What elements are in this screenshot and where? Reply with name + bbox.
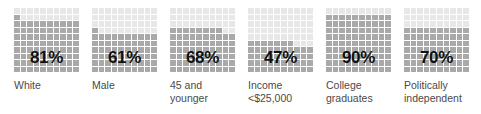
waffle-cell	[132, 41, 138, 47]
waffle-cell	[333, 28, 339, 34]
waffle-cell	[177, 8, 183, 14]
waffle-cell	[450, 28, 456, 34]
waffle-cell	[170, 28, 176, 34]
waffle-cell	[21, 60, 27, 66]
waffle-cell	[47, 67, 53, 73]
waffle-cell	[138, 28, 144, 34]
waffle-cell	[34, 28, 40, 34]
waffle-cell	[339, 8, 345, 14]
waffle-cell	[47, 34, 53, 40]
waffle-cell	[125, 8, 131, 14]
waffle-cell	[177, 28, 183, 34]
waffle-cell	[411, 21, 417, 27]
waffle-cell	[112, 8, 118, 14]
waffle-cell	[288, 15, 294, 21]
waffle-cell	[183, 28, 189, 34]
waffle-cell	[67, 34, 73, 40]
waffle-grid: 68%	[170, 8, 235, 72]
waffle-cell	[274, 67, 280, 73]
waffle-cell	[359, 28, 365, 34]
waffle-cell	[216, 34, 222, 40]
waffle-cell	[67, 21, 73, 27]
waffle-cell	[112, 15, 118, 21]
waffle-cell	[463, 47, 469, 53]
waffle-cell	[177, 67, 183, 73]
waffle-cell	[450, 34, 456, 40]
waffle-grid: 61%	[92, 8, 157, 72]
waffle-cell	[359, 47, 365, 53]
waffle-cell	[288, 54, 294, 60]
waffle-cell	[54, 21, 60, 27]
waffle-cell	[359, 41, 365, 47]
waffle-cell	[125, 54, 131, 60]
waffle-cell	[54, 15, 60, 21]
waffle-cell	[450, 41, 456, 47]
waffle-cell	[40, 47, 46, 53]
waffle-item-politically-independent: 70% Politically independent	[404, 8, 469, 104]
waffle-cell	[118, 54, 124, 60]
waffle-cell	[301, 67, 307, 73]
waffle-cell	[14, 54, 20, 60]
waffle-cell	[268, 67, 274, 73]
waffle-cell	[430, 8, 436, 14]
waffle-cell	[92, 28, 98, 34]
waffle-category-label: Male	[92, 79, 157, 92]
waffle-cell	[255, 41, 261, 47]
waffle-cell	[248, 47, 254, 53]
waffle-cell	[138, 67, 144, 73]
waffle-cell	[301, 60, 307, 66]
waffle-cell	[326, 54, 332, 60]
waffle-cell	[430, 41, 436, 47]
waffle-cell	[54, 41, 60, 47]
waffle-cell	[352, 8, 358, 14]
waffle-category-label: 45 and younger	[170, 79, 235, 104]
waffle-cell	[379, 8, 385, 14]
waffle-cell	[21, 54, 27, 60]
waffle-cell	[379, 67, 385, 73]
waffle-cell	[430, 47, 436, 53]
waffle-cell	[132, 54, 138, 60]
waffle-cell	[379, 41, 385, 47]
waffle-cell	[40, 21, 46, 27]
waffle-cell	[385, 28, 391, 34]
waffle-cell	[274, 34, 280, 40]
waffle-cell	[430, 21, 436, 27]
waffle-cell	[67, 8, 73, 14]
waffle-cell	[255, 47, 261, 53]
waffle-cell	[430, 60, 436, 66]
waffle-cell	[170, 67, 176, 73]
waffle-cell	[444, 28, 450, 34]
waffle-cell	[47, 60, 53, 66]
waffle-cell	[274, 47, 280, 53]
waffle-cell	[40, 8, 46, 14]
waffle-cell	[281, 21, 287, 27]
waffle-cell	[177, 21, 183, 27]
waffle-cell	[112, 60, 118, 66]
waffle-cell	[339, 21, 345, 27]
waffle-cell	[301, 15, 307, 21]
waffle-cell	[196, 67, 202, 73]
waffle-cell	[151, 60, 157, 66]
waffle-cell	[223, 15, 229, 21]
waffle-cell	[151, 8, 157, 14]
waffle-cell	[21, 28, 27, 34]
waffle-cell	[457, 47, 463, 53]
waffle-cell	[203, 8, 209, 14]
waffle-cell	[118, 21, 124, 27]
waffle-cell	[203, 34, 209, 40]
waffle-cell	[417, 60, 423, 66]
waffle-cell	[333, 67, 339, 73]
waffle-cell	[73, 54, 79, 60]
waffle-cell	[177, 41, 183, 47]
waffle-cell	[281, 67, 287, 73]
waffle-cell	[210, 8, 216, 14]
waffle-cell	[326, 34, 332, 40]
waffle-cell	[301, 34, 307, 40]
waffle-cell	[274, 54, 280, 60]
waffle-cell	[203, 15, 209, 21]
waffle-cell	[138, 21, 144, 27]
waffle-cell	[73, 60, 79, 66]
waffle-cell	[125, 34, 131, 40]
waffle-cell	[437, 67, 443, 73]
waffle-cell	[437, 21, 443, 27]
